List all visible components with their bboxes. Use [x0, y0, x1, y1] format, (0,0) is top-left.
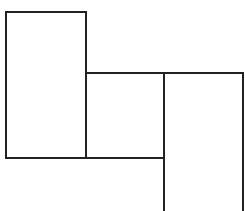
middle-square — [86, 73, 164, 158]
left-rectangle — [6, 12, 86, 158]
shapes-diagram — [0, 0, 245, 211]
right-rectangle-open-bottom — [164, 73, 243, 211]
